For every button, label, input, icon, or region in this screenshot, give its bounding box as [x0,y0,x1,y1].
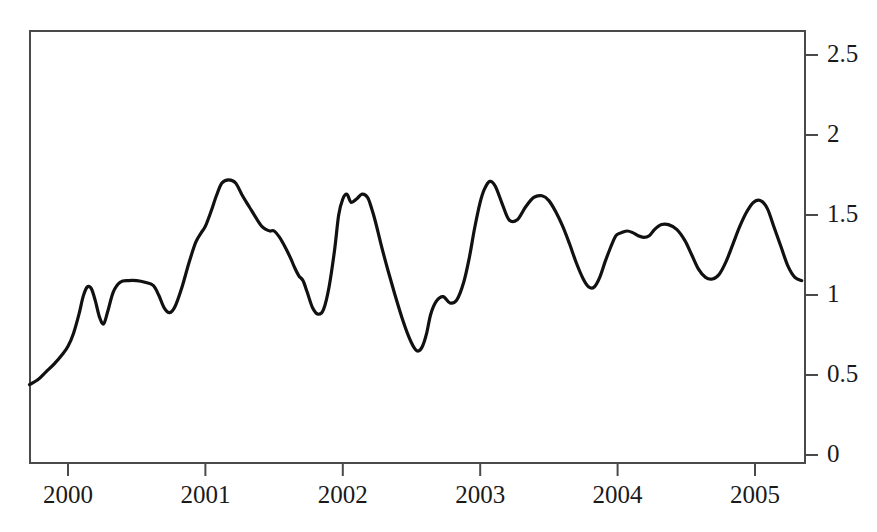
x-axis-tick-labels: 200020012002200320042005 [43,481,780,508]
y-tick-label: 1.5 [827,200,858,227]
data-line-1 [30,180,802,385]
chart-figure: 00.511.522.5 200020012002200320042005 [0,0,877,532]
y-tick-label: 0.5 [827,360,858,387]
x-tick-label: 2002 [318,481,368,508]
y-axis-ticks [805,55,818,455]
y-tick-label: 0 [827,440,840,467]
x-tick-label: 2003 [455,481,505,508]
x-tick-label: 2000 [43,481,93,508]
y-tick-label: 2 [827,120,840,147]
y-tick-label: 1 [827,280,840,307]
x-axis-ticks [68,463,755,476]
line-chart-plot: 00.511.522.5 200020012002200320042005 [0,0,877,532]
x-tick-label: 2005 [730,481,780,508]
data-series-group [30,180,802,385]
x-tick-label: 2001 [180,481,230,508]
y-axis-tick-labels: 00.511.522.5 [827,40,858,467]
x-tick-label: 2004 [593,481,644,508]
y-tick-label: 2.5 [827,40,858,67]
